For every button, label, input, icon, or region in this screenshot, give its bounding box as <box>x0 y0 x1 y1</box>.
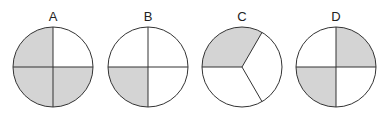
circle-a: A <box>13 9 93 107</box>
shaded-quarter-top-left <box>13 27 53 67</box>
circle-label-b: B <box>144 9 153 24</box>
shaded-quarter-bottom-left <box>108 67 148 107</box>
shaded-quarter-bottom-right <box>53 67 93 107</box>
shaded-quarter-top-right <box>336 27 376 67</box>
divider-lower-right <box>242 67 262 102</box>
circle-b: B <box>108 9 188 107</box>
shaded-quarter-bottom-left <box>296 67 336 107</box>
circle-label-c: C <box>237 9 246 24</box>
shaded-quarter-bottom-left <box>13 67 53 107</box>
circle-d: D <box>296 9 376 107</box>
circle-c: C <box>202 9 282 107</box>
circle-label-a: A <box>49 9 58 24</box>
circle-label-d: D <box>331 9 340 24</box>
fraction-circles-diagram: A B C D <box>0 0 388 120</box>
